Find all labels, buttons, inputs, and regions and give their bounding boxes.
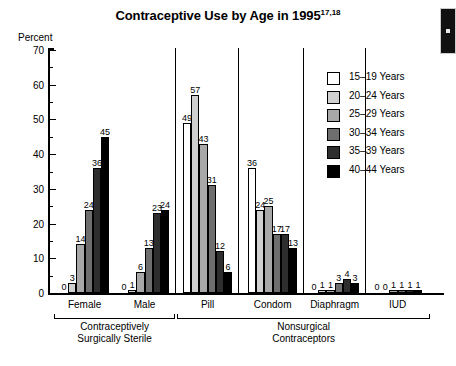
bar-value-label: 6 (138, 262, 143, 273)
bar-value-label: 3 (353, 273, 358, 284)
x-category-label-condom: Condom (254, 299, 292, 310)
legend: 15–19 Years20–24 Years25–29 Years30–34 Y… (327, 70, 439, 181)
bar-value-label: 3 (336, 273, 341, 284)
x-category-label-male: Male (134, 299, 156, 310)
bar: 49 (183, 123, 191, 293)
bar: 1 (398, 290, 406, 293)
group-bracket (54, 314, 175, 319)
bar: 1 (406, 290, 414, 293)
y-tick-label: 70 (33, 45, 44, 56)
legend-item[interactable]: 25–29 Years (327, 107, 439, 126)
legend-swatch (327, 91, 340, 104)
chart-title-superscript: 17,18 (321, 8, 341, 17)
y-tick-minor (50, 172, 53, 173)
y-tick-minor (50, 102, 53, 103)
group-bracket (177, 314, 430, 319)
bar: 31 (208, 185, 216, 293)
legend-item[interactable]: 40–44 Years (327, 163, 439, 182)
bar-value-label: 0 (62, 282, 67, 293)
bar: 13 (145, 248, 153, 293)
y-tick-major (50, 50, 56, 51)
bar: 23 (153, 213, 161, 293)
group-separator (303, 48, 304, 293)
x-category-label-female: Female (68, 299, 101, 310)
bar-value-label: 1 (416, 280, 421, 291)
group-bracket-label: ContraceptivelySurgically Sterile (77, 321, 151, 345)
bar-value-label: 4 (344, 269, 349, 280)
bar: 1 (318, 290, 326, 293)
bar: 4 (343, 279, 351, 293)
chart-title-text: Contraceptive Use by Age in 1995 (115, 8, 320, 23)
bar: 45 (101, 137, 109, 293)
legend-item[interactable]: 20–24 Years (327, 89, 439, 108)
bar: 1 (414, 290, 422, 293)
legend-item[interactable]: 35–39 Years (327, 144, 439, 163)
bar-value-label: 31 (207, 175, 217, 186)
y-tick-major (50, 189, 56, 190)
bar-value-label: 1 (328, 280, 333, 291)
y-tick-minor (50, 206, 53, 207)
chart-page: Contraceptive Use by Age in 199517,18 Pe… (0, 0, 456, 366)
bar-value-label: 1 (320, 280, 325, 291)
y-tick-major (50, 119, 56, 120)
bar-value-label: 3 (70, 273, 75, 284)
bar-value-label: 0 (375, 282, 380, 293)
bar-value-label: 1 (399, 280, 404, 291)
legend-swatch (327, 128, 340, 141)
bar-value-label: 45 (100, 127, 110, 138)
y-tick-label: 30 (33, 183, 44, 194)
legend-swatch (327, 146, 340, 159)
legend-label: 35–39 Years (349, 145, 405, 156)
legend-swatch (327, 165, 340, 178)
y-tick-major (50, 154, 56, 155)
edge-artifact (440, 8, 456, 54)
bar: 24 (85, 210, 93, 293)
bar-value-label: 17 (280, 224, 290, 235)
bar: 25 (264, 206, 272, 293)
bar-value-label: 36 (247, 158, 257, 169)
bar: 1 (389, 290, 397, 293)
y-tick-minor (50, 67, 53, 68)
y-tick-major (50, 224, 56, 225)
bar: 24 (161, 210, 169, 293)
group-bracket-label-line1: Contraceptively (77, 321, 151, 333)
y-tick-major (50, 293, 56, 294)
legend-item[interactable]: 15–19 Years (327, 70, 439, 89)
y-tick-minor (50, 137, 53, 138)
group-separator (175, 48, 176, 293)
bar: 6 (224, 272, 232, 293)
page-title: Contraceptive Use by Age in 199517,18 (0, 8, 456, 23)
y-tick-label: 0 (38, 288, 44, 299)
bar: 3 (335, 283, 343, 293)
y-tick-label: 50 (33, 114, 44, 125)
bar: 1 (128, 290, 136, 293)
bar: 6 (136, 272, 144, 293)
bar: 14 (76, 244, 84, 293)
bar-value-label: 43 (198, 134, 208, 145)
group-bracket-label-line1: Nonsurgical (272, 321, 335, 333)
x-axis-line (48, 293, 444, 295)
y-tick-label: 20 (33, 218, 44, 229)
bar-value-label: 13 (288, 238, 298, 249)
legend-label: 20–24 Years (349, 90, 405, 101)
group-separator (238, 48, 239, 293)
y-tick-major (50, 85, 56, 86)
bar: 36 (248, 168, 256, 293)
legend-swatch (327, 109, 340, 122)
legend-label: 30–34 Years (349, 127, 405, 138)
bar: 17 (273, 234, 281, 293)
group-bracket-label: NonsurgicalContraceptors (272, 321, 335, 345)
bar-value-label: 6 (226, 262, 231, 273)
bar: 12 (216, 251, 224, 293)
bar-value-label: 12 (215, 241, 225, 252)
legend-label: 25–29 Years (349, 108, 405, 119)
legend-label: 40–44 Years (349, 164, 405, 175)
group-bracket-label-line2: Surgically Sterile (77, 333, 151, 345)
legend-item[interactable]: 30–34 Years (327, 126, 439, 145)
bar: 43 (199, 144, 207, 293)
edge-artifact-dot (446, 29, 450, 33)
y-tick-label: 40 (33, 149, 44, 160)
bar-value-label: 1 (391, 280, 396, 291)
bar-value-label: 1 (407, 280, 412, 291)
group-bracket-label-line2: Contraceptors (272, 333, 335, 345)
